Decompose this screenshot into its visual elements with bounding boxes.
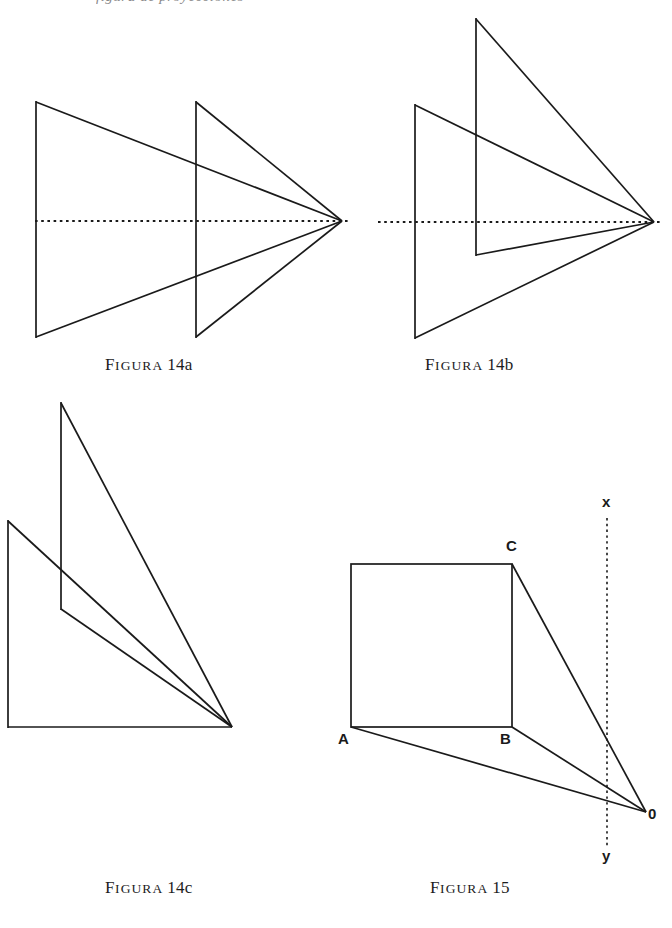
figure-14c — [8, 402, 232, 728]
fig14a-ray-near-top — [36, 102, 342, 221]
fig14b-ray-lower-bottom — [415, 222, 654, 338]
fig14c-hypotenuse-upper — [61, 403, 232, 727]
caption-figura-14a: FIGURA14a — [105, 355, 192, 375]
figure-14a — [35, 101, 349, 338]
caption-14a-number: 14a — [167, 355, 192, 374]
caption-figura-14b: FIGURA14b — [425, 355, 513, 375]
caption-14a-first-letter: F — [105, 355, 115, 374]
caption-14b-rest: IGURA — [435, 358, 483, 373]
axis-label-y: y — [602, 848, 610, 863]
caption-14b-number: 14b — [487, 355, 513, 374]
caption-14b-first-letter: F — [425, 355, 435, 374]
fig14a-ray-far-bottom — [196, 221, 342, 337]
fig14c-hypotenuse-lower — [8, 521, 232, 727]
figure-14b — [378, 18, 661, 339]
vertex-label-b: B — [500, 731, 511, 746]
fig14a-ray-near-bottom — [36, 221, 342, 337]
partial-top-text: figura de proyecciones — [96, 0, 244, 5]
vertex-label-c: C — [506, 538, 517, 553]
caption-15-first-letter: F — [430, 878, 440, 897]
fig15-square — [351, 564, 512, 727]
fig15-ray-B-to-O — [512, 727, 646, 812]
caption-figura-14c: FIGURA14c — [105, 878, 192, 898]
fig14b-ray-lower-top — [415, 105, 654, 222]
fig14c-base-upper — [61, 609, 232, 727]
fig14b-ray-upper-bottom — [476, 222, 654, 255]
figure-15 — [351, 518, 646, 846]
caption-14c-number: 14c — [167, 878, 192, 897]
caption-14a-rest: IGURA — [115, 358, 163, 373]
axis-label-x: x — [602, 494, 610, 509]
figure-page: figura de proyecciones — [0, 0, 672, 928]
caption-14c-rest: IGURA — [115, 881, 163, 896]
caption-15-number: 15 — [492, 878, 509, 897]
caption-figura-15: FIGURA15 — [430, 878, 510, 898]
fig15-ray-A-to-O — [351, 727, 646, 812]
fig15-ray-C-to-O — [512, 564, 646, 812]
caption-15-rest: IGURA — [440, 881, 488, 896]
vertex-label-o: 0 — [648, 806, 656, 821]
fig14a-ray-far-top — [196, 102, 342, 221]
vertex-label-a: A — [338, 731, 349, 746]
fig14b-ray-upper-top — [476, 19, 654, 222]
figures-canvas — [0, 0, 672, 928]
caption-14c-first-letter: F — [105, 878, 115, 897]
